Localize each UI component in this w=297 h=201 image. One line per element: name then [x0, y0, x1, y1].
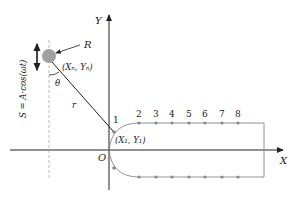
point-label-6: 6	[202, 109, 208, 119]
x-axis-label: X	[279, 155, 288, 166]
track-point-lower-1	[112, 166, 116, 170]
point-label-3: 3	[153, 109, 159, 119]
motion-label: S = A·cos(ωt)	[18, 60, 28, 118]
point-label-2: 2	[136, 109, 142, 119]
arm-label: r	[72, 100, 77, 110]
mass-pointer	[56, 45, 80, 53]
point-label-5: 5	[186, 109, 192, 119]
point-label-1: 1	[113, 115, 119, 125]
origin-label: O	[98, 152, 106, 163]
track-point-1	[112, 130, 116, 134]
angle-label: θ	[55, 78, 60, 88]
point-label-7: 7	[219, 109, 225, 119]
point-label-8: 8	[235, 109, 241, 119]
y-axis-label: Y	[95, 15, 103, 26]
mass-label: R	[83, 39, 92, 50]
mass-icon	[42, 49, 56, 63]
angle-arc	[49, 72, 59, 75]
pivot-label: (Xₙ, Yₙ)	[62, 62, 93, 72]
point-label-4: 4	[169, 109, 175, 119]
pendulum-arm	[52, 62, 113, 131]
start-coord-label: (X₁, Y₁)	[115, 135, 146, 145]
pendulum-track-diagram: X Y O R S = A·cos(ωt) (Xₙ, Yₙ) θ r 1 (X₁…	[0, 0, 297, 201]
